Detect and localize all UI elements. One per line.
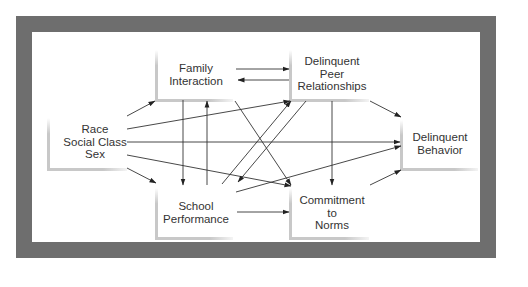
node-race-social-class-sex: Race Social Class Sex	[55, 123, 135, 161]
node-school-performance: School Performance	[160, 200, 232, 225]
node-family-interaction: Family Interaction	[160, 62, 232, 87]
node-delinquent-peer-relationships: Delinquent Peer Relationships	[292, 55, 372, 93]
node-delinquent-behavior: Delinquent Behavior	[404, 131, 476, 156]
node-commitment-to-norms: Commitment to Norms	[292, 194, 372, 232]
